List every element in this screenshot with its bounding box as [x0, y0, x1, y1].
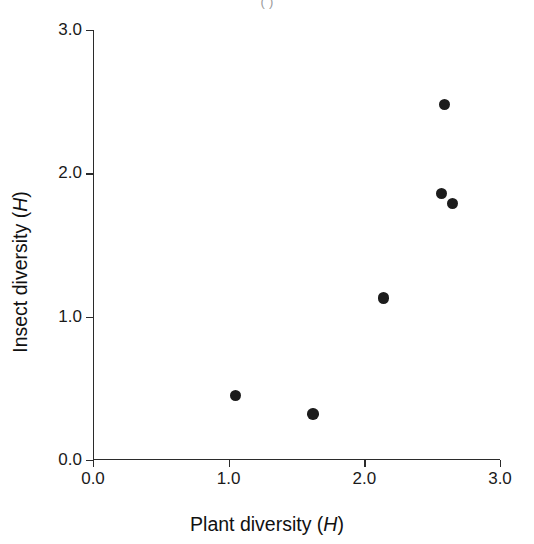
data-point	[447, 198, 459, 210]
clipped-caption-fragment: ( )	[0, 0, 534, 9]
x-tick-label-1: 1.0	[217, 469, 241, 489]
y-tick-label-2: 2.0	[58, 163, 82, 183]
x-tick-3	[500, 460, 501, 467]
y-tick-3	[86, 30, 93, 31]
x-tick-label-2: 2.0	[352, 469, 376, 489]
x-axis-title: Plant diversity (H)	[0, 513, 534, 536]
x-axis-title-text: Plant diversity (	[190, 513, 323, 535]
y-tick-2	[86, 173, 93, 174]
data-point	[378, 292, 390, 304]
data-point	[307, 408, 319, 420]
x-axis-line	[93, 459, 500, 460]
y-axis-line	[93, 30, 94, 460]
y-axis-title-container: Insect diversity (H)	[6, 0, 34, 544]
y-axis-title-text: Insect diversity (	[9, 212, 31, 353]
data-point	[439, 99, 451, 111]
x-tick-0	[93, 460, 94, 467]
x-axis-title-symbol: H	[323, 513, 337, 535]
x-tick-label-0: 0.0	[81, 469, 105, 489]
y-tick-label-3: 3.0	[58, 20, 82, 40]
y-tick-label-1: 1.0	[58, 307, 82, 327]
x-tick-label-3: 3.0	[488, 469, 512, 489]
x-tick-2	[364, 460, 365, 467]
data-point	[230, 390, 242, 402]
scatter-plot-figure: ( ) Insect diversity (H) 0.0 1.0 2.0 3.0…	[0, 0, 534, 544]
x-axis-title-close: )	[337, 513, 344, 535]
y-tick-0	[86, 460, 93, 461]
y-axis-title-symbol: H	[9, 198, 31, 212]
y-axis-title-close: )	[9, 191, 31, 198]
plot-area: 0.0 1.0 2.0 3.0 0.0 1.0 2.0 3.0	[93, 30, 500, 460]
data-point	[436, 188, 448, 200]
y-tick-label-0: 0.0	[58, 450, 82, 470]
y-axis-title: Insect diversity (H)	[9, 191, 32, 352]
x-tick-1	[229, 460, 230, 467]
y-tick-1	[86, 317, 93, 318]
